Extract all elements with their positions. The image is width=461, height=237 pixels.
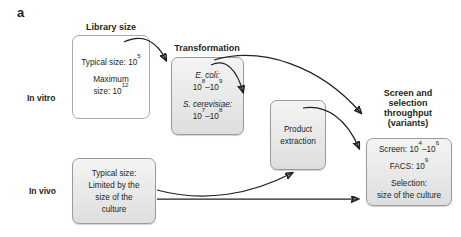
library-size-exp-2: 12 <box>122 81 129 88</box>
facs-exp: 9 <box>425 156 428 163</box>
screen-selection-box: Screen: 104–106 FACS: 109 Selection: siz… <box>366 138 452 206</box>
facs-throughput-value: FACS: 109 <box>390 161 429 172</box>
product-extraction-line-2: extraction <box>280 136 316 147</box>
transformation-organism-2: S. cerevisiae: <box>183 99 232 110</box>
transformation-exp-2b: 8 <box>219 106 222 113</box>
library-size-box: Typical size: 105 Maximum size: 1012 <box>72 35 150 119</box>
transformation-exp-1a: 8 <box>202 77 205 84</box>
product-extraction-line-1: Product <box>284 124 312 135</box>
row-label-in-vivo: In vivo <box>29 186 56 196</box>
heading-screen-selection: Screen and selection throughput (variant… <box>361 88 455 128</box>
panel-letter: a <box>17 5 24 20</box>
heading-screen-line-1: Screen and <box>361 88 455 98</box>
transformation-value-2: 107–108 <box>193 111 223 122</box>
transformation-organism-1: E. coli: <box>195 70 220 81</box>
transformation-box: E. coli: 108–109 S. cerevisiae: 107–108 <box>171 57 244 135</box>
transformation-exp-2a: 7 <box>202 106 205 113</box>
in-vivo-line-4: culture <box>102 204 127 215</box>
library-size-line-3: size: 1012 <box>93 86 128 97</box>
library-size-line-1: Typical size: 105 <box>81 57 140 68</box>
transformation-exp-1b: 9 <box>219 77 222 84</box>
heading-screen-line-4: (variants) <box>361 118 455 128</box>
in-vivo-line-2: Limited by the <box>89 180 140 191</box>
heading-screen-line-2: selection <box>361 98 455 108</box>
in-vivo-line-1: Typical size: <box>92 168 137 179</box>
heading-transformation: Transformation <box>160 43 254 53</box>
figure-panel-a: a In vitro In vivo Library size Typical … <box>0 0 461 237</box>
screen-throughput-value: Screen: 104–106 <box>379 144 439 155</box>
in-vivo-library-box: Typical size: Limited by the size of the… <box>72 158 156 224</box>
screen-exp-2: 6 <box>436 139 439 146</box>
heading-screen-line-3: throughput <box>361 108 455 118</box>
heading-library-size: Library size <box>69 22 153 32</box>
screen-exp-1: 4 <box>419 139 422 146</box>
arrow-in-vivo-to-product-extraction <box>157 173 292 196</box>
in-vivo-line-3: size of the <box>95 192 132 203</box>
product-extraction-box: Product extraction <box>270 100 326 170</box>
transformation-value-1: 108–109 <box>193 82 223 93</box>
row-label-in-vitro: In vitro <box>27 93 55 103</box>
selection-label: Selection: <box>391 178 427 189</box>
selection-value: size of the culture <box>377 190 441 201</box>
library-size-exp-1: 5 <box>137 52 140 59</box>
